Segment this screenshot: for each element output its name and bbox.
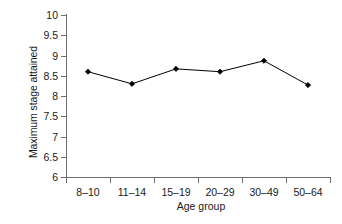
data-point-marker bbox=[85, 69, 90, 74]
data-point-marker bbox=[129, 81, 134, 86]
x-axis-title: Age group bbox=[66, 200, 336, 213]
chart-container: Maximum stage attained 66.577.588.599.51… bbox=[0, 0, 342, 224]
data-point-marker bbox=[173, 66, 178, 71]
data-point-marker bbox=[261, 58, 266, 63]
data-point-marker bbox=[217, 69, 222, 74]
data-point-marker bbox=[305, 82, 310, 87]
data-series bbox=[0, 0, 342, 224]
series-line bbox=[88, 61, 308, 85]
